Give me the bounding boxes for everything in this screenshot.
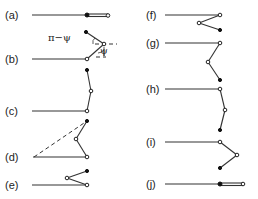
panel-label-f: (f) xyxy=(146,9,156,21)
panel-label-a: (a) xyxy=(5,9,18,21)
hinge-joint xyxy=(85,57,89,61)
panel-d: (d) xyxy=(5,119,89,163)
linkage-diagram: (a) (b) π−ψ ψ (c) (d) xyxy=(0,0,258,199)
hinge-joint xyxy=(85,109,89,113)
hinge-joint xyxy=(218,13,222,17)
panel-j: (j) xyxy=(146,178,245,190)
hinge-joint xyxy=(235,153,239,157)
panel-g: (g) xyxy=(146,37,222,82)
free-end-dot xyxy=(85,119,88,122)
panel-label-j: (j) xyxy=(146,178,156,190)
hinge-joint xyxy=(218,41,222,45)
free-end-dot xyxy=(84,30,87,33)
hinge-joint xyxy=(65,176,69,180)
free-end-dot xyxy=(218,78,221,81)
panel-a: (a) xyxy=(5,9,110,21)
panel-c: (c) xyxy=(5,68,93,117)
hinge-joint xyxy=(218,87,222,91)
hinge-joint xyxy=(223,108,227,112)
free-end-dot xyxy=(218,166,221,169)
panel-i: (i) xyxy=(146,136,239,170)
hinge-joint xyxy=(206,60,210,64)
hinge-joint xyxy=(218,140,222,144)
hinge-joint xyxy=(102,42,106,46)
angle-psi-label: ψ xyxy=(100,45,108,56)
hinge-joint xyxy=(241,182,245,186)
panel-label-c: (c) xyxy=(5,105,18,117)
free-end-dot xyxy=(218,182,222,186)
panel-b: (b) π−ψ ψ xyxy=(5,30,117,65)
free-end-dot xyxy=(218,128,221,131)
panel-label-h: (h) xyxy=(146,83,159,95)
free-end-dot xyxy=(85,68,88,71)
hinge-joint xyxy=(85,183,89,187)
hinge-joint xyxy=(106,14,110,18)
panel-h: (h) xyxy=(146,83,227,132)
panel-label-b: (b) xyxy=(5,53,18,65)
hinge-joint xyxy=(89,89,93,93)
panel-label-g: (g) xyxy=(146,37,159,49)
hinge-joint xyxy=(85,155,89,159)
hinge-joint xyxy=(197,21,201,25)
hinge-joint xyxy=(74,137,78,141)
panel-label-e: (e) xyxy=(5,179,18,191)
panel-label-d: (d) xyxy=(5,151,18,163)
free-end-dot xyxy=(85,169,88,172)
angle-pi-minus-psi-label: π−ψ xyxy=(48,32,71,43)
free-end-dot xyxy=(218,28,221,31)
free-end-dot xyxy=(85,13,89,17)
panel-label-i: (i) xyxy=(146,136,156,148)
panel-e: (e) xyxy=(5,169,89,191)
panel-f: (f) xyxy=(146,9,222,32)
